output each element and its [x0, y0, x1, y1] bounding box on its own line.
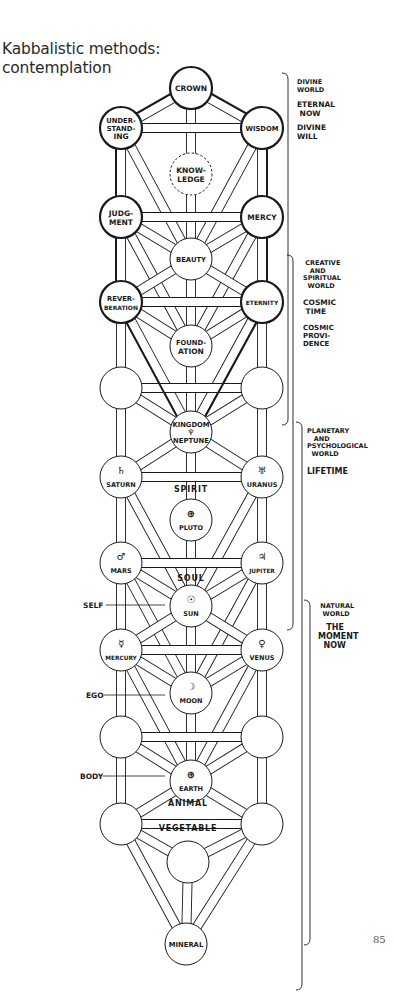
- node-mineral: MINERAL: [165, 923, 207, 965]
- divine-world-text: WILL: [297, 132, 318, 141]
- divine-world-text: NOW: [297, 109, 321, 118]
- saturn-symbol-icon: ♄: [117, 465, 126, 476]
- label-vegetable: VEGETABLE: [159, 824, 218, 833]
- node-understanding: UNDER-STAND-ING: [100, 107, 142, 149]
- reverberation-label: BERATION: [104, 304, 138, 311]
- pluto-symbol-icon: ⊕: [187, 508, 195, 519]
- node-empty-right-1: [241, 367, 283, 409]
- reverberation-label: REVER-: [107, 295, 135, 303]
- jupiter-label: JUPITER: [248, 568, 275, 575]
- creative-spiritual-world-text: TIME: [303, 307, 326, 316]
- earth-symbol-icon: ⊕: [187, 769, 195, 780]
- node-moon: ☽MOON: [170, 672, 212, 714]
- eternity-label: ETERNITY: [246, 299, 279, 306]
- foundation-label: FOUND-: [176, 339, 206, 347]
- planetary-psychological-world-text: LIFETIME: [307, 467, 348, 476]
- mars-label: MARS: [110, 567, 132, 575]
- venus-label: VENUS: [250, 654, 275, 662]
- knowledge-label: LEDGE: [177, 175, 204, 184]
- node-foundation: FOUND-ATION: [170, 325, 212, 367]
- judgment-label: MENT: [109, 218, 134, 227]
- natural-world-text: THE: [318, 623, 344, 632]
- world-brackets: [282, 73, 310, 990]
- pluto-label: PLUTO: [179, 524, 203, 532]
- mineral-label: MINERAL: [169, 941, 204, 949]
- node-empty-right-2: [241, 716, 283, 758]
- planetary-psychological-world-text: WORLD: [307, 450, 339, 458]
- node-kingdom: KINGDOM♆NEPTUNE: [170, 411, 212, 453]
- node-mercy: MERCY: [241, 196, 283, 238]
- beauty-label: BEAUTY: [176, 256, 206, 264]
- sun-label: SUN: [183, 610, 198, 618]
- crown-label: CROWN: [175, 84, 207, 93]
- uranus-label: URANUS: [247, 481, 278, 489]
- node-venus: ♀VENUS: [241, 629, 283, 671]
- node-judgment: JUDG-MENT: [100, 196, 142, 238]
- wisdom-label: WISDOM: [245, 125, 278, 133]
- node-vegetable-node: [167, 841, 209, 883]
- natural-world-text: NOW: [318, 641, 346, 650]
- node-empty-left-1: [100, 367, 142, 409]
- side-label-body: BODY: [80, 772, 104, 781]
- mars-symbol-icon: ♂: [117, 551, 126, 562]
- node-crown: CROWN: [170, 67, 212, 109]
- mercury-symbol-icon: ☿: [118, 638, 124, 649]
- moon-symbol-icon: ☽: [187, 681, 196, 692]
- node-saturn: ♄SATURN: [100, 456, 142, 498]
- node-sun: ☉SUN: [170, 585, 212, 627]
- saturn-label: SATURN: [106, 481, 135, 489]
- planetary-psychological-world-bracket: [296, 422, 302, 990]
- node-eternity: ETERNITY: [241, 281, 283, 323]
- node-empty-left-2: [100, 716, 142, 758]
- venus-symbol-icon: ♀: [258, 638, 265, 649]
- jupiter-symbol-icon: ♃: [258, 551, 267, 562]
- tree-of-life-diagram: CROWNUNDER-STAND-INGWISDOMKNOW-LEDGEJUDG…: [0, 0, 394, 998]
- kingdom-label: NEPTUNE: [173, 437, 209, 445]
- node-pluto: ⊕PLUTO: [170, 499, 212, 541]
- creative-spiritual-world-text: WORLD: [303, 282, 335, 290]
- sun-symbol-icon: ☉: [187, 594, 196, 605]
- node-reverberation: REVER-BERATION: [100, 281, 142, 323]
- node-mercury: ☿MERCURY: [100, 629, 142, 671]
- node-empty-right-3: [241, 803, 283, 845]
- mercury-label: MERCURY: [105, 655, 137, 661]
- side-label-self: SELF: [83, 601, 103, 610]
- side-label-ego: EGO: [86, 691, 104, 700]
- node-empty-left-3: [100, 803, 142, 845]
- earth-label: EARTH: [179, 785, 203, 793]
- natural-world-text: WORLD: [318, 610, 350, 618]
- label-spirit: SPIRIT: [174, 485, 208, 494]
- creative-spiritual-world-text: DENCE: [303, 340, 330, 348]
- page-number: 85: [373, 934, 386, 945]
- node-earth: ⊕EARTH: [170, 760, 212, 802]
- understanding-label: UNDER-: [106, 117, 136, 125]
- neptune-symbol-icon: ♆: [187, 428, 194, 437]
- mercy-label: MERCY: [247, 213, 277, 222]
- moon-label: MOON: [180, 697, 203, 705]
- node-mars: ♂MARS: [100, 542, 142, 584]
- node-beauty: BEAUTY: [170, 238, 212, 280]
- label-animal: ANIMAL: [168, 799, 208, 808]
- divine-world-text: WORLD: [297, 86, 325, 94]
- natural-world-bracket: [304, 600, 310, 945]
- foundation-label: ATION: [178, 347, 204, 356]
- creative-spiritual-world-text: PROVI-: [303, 332, 330, 340]
- knowledge-label: KNOW-: [176, 166, 206, 175]
- natural-world-text: MOMENT: [318, 632, 359, 641]
- node-uranus: ♅URANUS: [241, 456, 283, 498]
- node-knowledge: KNOW-LEDGE: [170, 153, 212, 195]
- node-jupiter: ♃JUPITER: [241, 542, 283, 584]
- world-labels: DIVINEWORLDETERNAL NOWDIVINEWILL CREATIV…: [297, 78, 368, 650]
- understanding-label: ING: [113, 132, 128, 141]
- judgment-label: JUDG-: [108, 209, 133, 218]
- uranus-symbol-icon: ♅: [258, 465, 267, 476]
- creative-spiritual-world-text: COSMIC: [303, 324, 334, 332]
- node-wisdom: WISDOM: [241, 107, 283, 149]
- label-soul: SOUL: [177, 574, 204, 583]
